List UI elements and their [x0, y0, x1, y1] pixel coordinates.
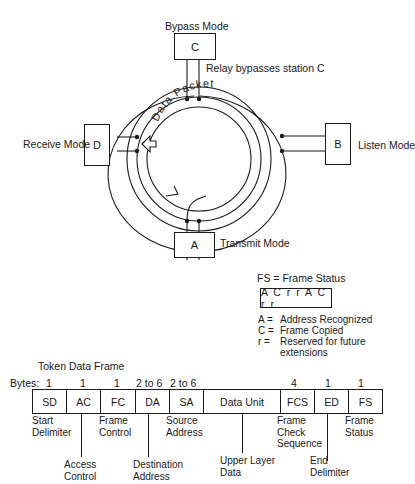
token-frame-title: Token Data Frame: [38, 360, 124, 372]
leader-ed: [327, 413, 328, 461]
field-fc: FC: [101, 390, 136, 413]
field-ac: AC: [67, 390, 101, 413]
station-c: C: [174, 33, 216, 60]
bytes-sa: 2 to 6: [170, 377, 196, 389]
desc-da: Destination Address: [133, 459, 183, 482]
desc-fc: Frame Control: [99, 415, 131, 438]
fs-legend-r-value: Reserved for future: [280, 336, 366, 348]
field-fs: FS: [349, 390, 382, 413]
desc-sa: Source Address: [166, 415, 203, 438]
field-data-unit: Data Unit: [204, 390, 281, 413]
field-sa: SA: [170, 390, 204, 413]
frame-status-bits: A C r r A C r r: [260, 288, 332, 308]
fs-legend-r-key: r =: [258, 336, 270, 348]
desc-fs: Frame Status: [345, 415, 374, 438]
fs-legend-a-key: A =: [258, 314, 273, 326]
bytes-sd: 1: [46, 377, 52, 389]
bytes-fcs: 4: [291, 377, 297, 389]
station-a: A: [174, 232, 215, 258]
station-c-mode: Bypass Mode: [165, 20, 229, 32]
leader-da: [148, 413, 149, 457]
station-b-mode: Listen Mode: [358, 139, 415, 151]
station-d-letter: D: [93, 139, 101, 151]
frame-status-title: FS = Frame Status: [257, 272, 345, 284]
field-da: DA: [136, 390, 170, 413]
desc-fcs: Frame Check Sequence: [277, 415, 322, 450]
station-d-mode: Receive Mode: [23, 138, 90, 150]
bytes-da: 2 to 6: [136, 377, 162, 389]
station-a-letter: A: [191, 239, 198, 251]
token-frame-fields: SD AC FC DA SA Data Unit FCS ED FS: [32, 389, 383, 414]
field-fcs: FCS: [281, 390, 315, 413]
fs-legend-r-value-cont: extensions: [280, 347, 328, 359]
desc-data-unit: Upper Layer Data: [220, 455, 275, 478]
fs-legend-c-value: Frame Copied: [280, 325, 343, 337]
desc-sd: Start Delimiter: [32, 415, 71, 438]
station-c-letter: C: [191, 41, 199, 53]
station-b-letter: B: [334, 138, 341, 150]
bytes-label: Bytes:: [10, 377, 39, 389]
field-sd: SD: [33, 390, 67, 413]
desc-ed: End Delimiter: [310, 455, 349, 478]
bytes-fc: 1: [114, 377, 120, 389]
field-ed: ED: [315, 390, 349, 413]
desc-ac: Access Control: [64, 459, 96, 482]
fs-legend-c-key: C =: [258, 325, 274, 337]
relay-note: Relay bypasses station C: [206, 62, 324, 74]
bytes-ac: 1: [80, 377, 86, 389]
fs-legend-a-value: Address Recognized: [280, 314, 372, 326]
station-a-mode: Transmit Mode: [220, 237, 290, 249]
station-b: B: [325, 123, 351, 165]
leader-data-unit: [242, 413, 243, 453]
bytes-ed: 1: [325, 377, 331, 389]
bytes-fs: 1: [358, 377, 364, 389]
leader-ac: [81, 413, 82, 457]
